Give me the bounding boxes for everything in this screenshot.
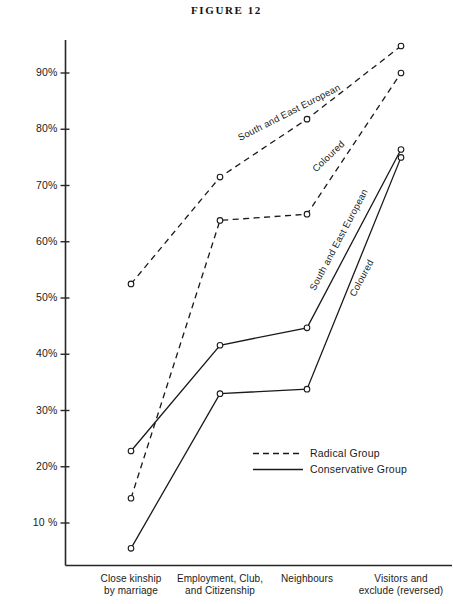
data-point-marker — [398, 43, 404, 49]
x-category-line-1: Visitors and — [345, 573, 453, 586]
data-point-marker — [217, 174, 223, 180]
y-axis-tick-label: 60% — [16, 235, 58, 247]
data-point-marker — [304, 211, 310, 217]
series-line-1 — [131, 46, 401, 284]
y-axis-tick-label: 90% — [16, 66, 58, 78]
legend-label-radical: Radical Group — [310, 447, 380, 459]
line-chart — [0, 0, 453, 604]
chart-axes — [66, 40, 453, 566]
x-category-line-2: exclude (reversed) — [345, 585, 453, 598]
data-point-marker — [398, 155, 404, 161]
data-point-marker — [128, 281, 134, 287]
data-point-marker — [128, 546, 134, 552]
y-axis-tick-label: 50% — [16, 291, 58, 303]
y-axis-tick-label: 80% — [16, 122, 58, 134]
data-point-marker — [128, 495, 134, 501]
y-axis-tick-label: 40% — [16, 347, 58, 359]
x-category-line-2: and Citizenship — [164, 585, 276, 598]
data-point-marker — [398, 147, 404, 153]
data-point-marker — [217, 342, 223, 348]
series-line-4 — [131, 157, 401, 548]
data-point-marker — [304, 386, 310, 392]
legend-label-conservative: Conservative Group — [310, 463, 407, 475]
data-point-marker — [128, 448, 134, 454]
y-axis-tick-label: 30% — [16, 404, 58, 416]
x-axis-category-4: Visitors andexclude (reversed) — [345, 573, 453, 598]
legend-swatches — [253, 454, 303, 470]
y-axis-tick-label: 20% — [16, 460, 58, 472]
data-point-marker — [304, 116, 310, 122]
y-axis-tick-label: 10 % — [16, 516, 58, 528]
data-point-marker — [398, 70, 404, 76]
data-point-marker — [304, 325, 310, 331]
data-point-marker — [217, 391, 223, 397]
data-point-marker — [217, 218, 223, 224]
y-axis-tick-label: 70% — [16, 179, 58, 191]
